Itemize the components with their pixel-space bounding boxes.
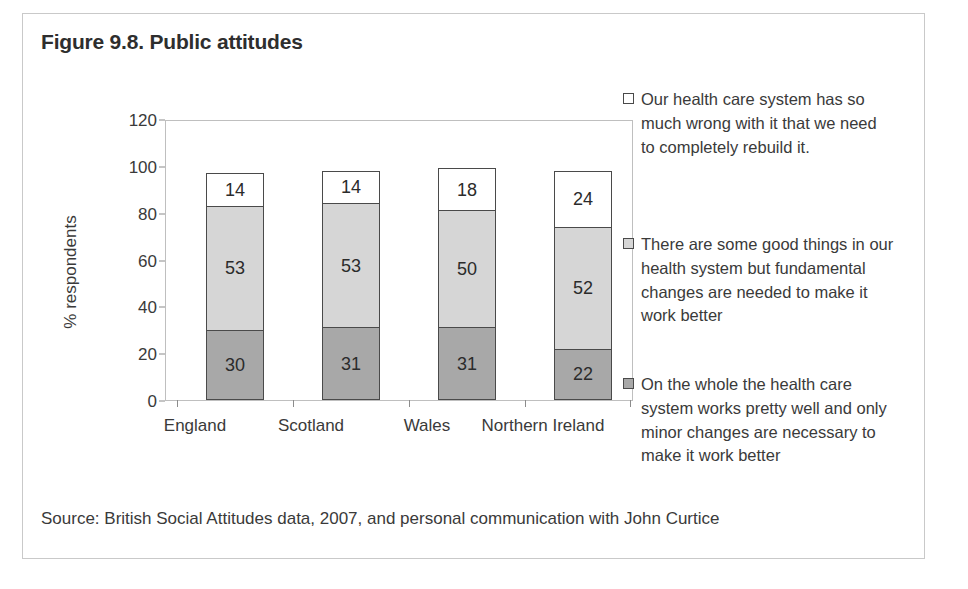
x-tick-mark-0	[177, 400, 178, 407]
x-tick-mark-3	[525, 400, 526, 407]
bar-england[interactable]: 14 53 30	[206, 173, 264, 400]
legend-label-minor-changes: On the whole the health care system work…	[641, 373, 895, 468]
bar-england-segment-middle[interactable]: 53	[206, 206, 264, 330]
bar-england-segment-top[interactable]: 14	[206, 173, 264, 206]
y-tick-label-40: 40	[113, 299, 157, 316]
bar-scotland-segment-bottom[interactable]: 31	[322, 327, 380, 400]
x-label-wales: Wales	[362, 416, 492, 436]
bar-scotland-label-bottom: 31	[341, 355, 361, 373]
bar-northern-ireland-segment-middle[interactable]: 52	[554, 227, 612, 349]
source-note: Source: British Social Attitudes data, 2…	[41, 509, 719, 529]
bar-wales[interactable]: 18 50 31	[438, 168, 496, 400]
x-label-scotland: Scotland	[246, 416, 376, 436]
y-axis-title: % respondents	[61, 192, 81, 352]
y-tick-label-0: 0	[113, 393, 157, 410]
legend-item-fundamental-changes[interactable]: There are some good things in our health…	[623, 233, 895, 328]
bar-wales-segment-middle[interactable]: 50	[438, 210, 496, 327]
y-tick-label-60: 60	[113, 252, 157, 269]
bar-wales-label-bottom: 31	[457, 355, 477, 373]
y-tick-label-20: 20	[113, 346, 157, 363]
x-tick-mark-1	[293, 400, 294, 407]
light-gray-square-swatch-icon	[623, 238, 634, 249]
bar-wales-label-top: 18	[457, 181, 477, 199]
legend-item-minor-changes[interactable]: On the whole the health care system work…	[623, 373, 895, 468]
dark-gray-square-swatch-icon	[623, 378, 634, 389]
bar-northern-ireland-segment-top[interactable]: 24	[554, 171, 612, 227]
bar-scotland-label-top: 14	[341, 178, 361, 196]
bar-wales-segment-bottom[interactable]: 31	[438, 327, 496, 400]
bar-scotland[interactable]: 14 53 31	[322, 171, 380, 400]
bar-northern-ireland-label-bottom: 22	[573, 365, 593, 383]
bar-northern-ireland-segment-bottom[interactable]: 22	[554, 349, 612, 401]
bar-wales-segment-top[interactable]: 18	[438, 168, 496, 210]
legend-label-rebuild: Our health care system has so much wrong…	[641, 88, 895, 159]
bar-england-label-bottom: 30	[225, 356, 245, 374]
bar-scotland-segment-top[interactable]: 14	[322, 171, 380, 204]
figure-title: Figure 9.8. Public attitudes	[41, 30, 303, 54]
legend-item-rebuild[interactable]: Our health care system has so much wrong…	[623, 88, 895, 159]
bar-wales-label-middle: 50	[457, 260, 477, 278]
x-label-northern-ireland: Northern Ireland	[478, 416, 608, 436]
chart-area: % respondents 120 100 80 60 40 20 0	[41, 94, 641, 494]
bar-england-segment-bottom[interactable]: 30	[206, 330, 264, 400]
white-square-swatch-icon	[623, 93, 634, 104]
figure-frame: Figure 9.8. Public attitudes % responden…	[22, 13, 925, 559]
bar-england-label-middle: 53	[225, 259, 245, 277]
legend-label-fundamental-changes: There are some good things in our health…	[641, 233, 895, 328]
y-tick-label-80: 80	[113, 205, 157, 222]
bar-england-label-top: 14	[225, 181, 245, 199]
bar-northern-ireland-label-middle: 52	[573, 279, 593, 297]
x-label-england: England	[130, 416, 260, 436]
x-tick-mark-2	[409, 400, 410, 407]
y-tick-label-120: 120	[113, 112, 157, 129]
bar-scotland-label-middle: 53	[341, 257, 361, 275]
bar-northern-ireland[interactable]: 24 52 22	[554, 171, 612, 400]
bar-scotland-segment-middle[interactable]: 53	[322, 203, 380, 327]
bar-northern-ireland-label-top: 24	[573, 190, 593, 208]
plot-area: 14 53 30 14 53 31	[165, 120, 633, 401]
y-tick-label-100: 100	[113, 158, 157, 175]
